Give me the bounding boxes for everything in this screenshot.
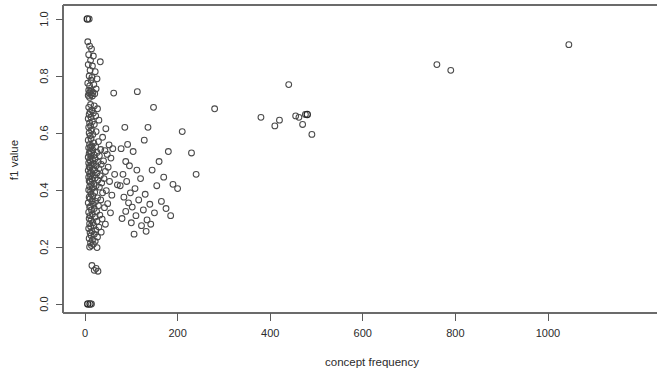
data-point [97,59,103,65]
data-point [129,204,135,210]
data-point [161,174,167,180]
data-point [138,176,144,182]
data-point [102,221,108,227]
data-point [434,62,440,68]
data-point [127,190,133,196]
data-point [139,223,145,229]
data-point [106,142,112,148]
data-point [111,90,117,96]
data-point [151,104,157,110]
data-point [128,220,134,226]
scatter-plot: 0.00.20.40.60.81.0 f1 value 020040060080… [0,0,657,376]
data-point [108,210,114,216]
data-point [110,146,116,152]
data-point [133,213,139,219]
data-point [107,179,113,185]
data-point [566,42,572,48]
data-point [168,213,174,219]
data-point [258,114,264,120]
data-point [136,197,142,203]
data-point [300,122,306,128]
x-axis-tick-label: 0 [82,327,88,339]
y-axis-tick-label: 0.4 [38,182,50,197]
x-axis-tick-labels: 02004006008001000 [82,327,560,339]
data-point [148,221,154,227]
x-axis-ticks [85,313,548,321]
data-point [105,164,111,170]
data-point [105,201,111,207]
data-point [125,142,131,148]
x-axis-tick-label: 600 [354,327,372,339]
plot-frame [63,5,657,313]
data-point [109,192,115,198]
data-point [134,167,140,173]
y-axis-title: f1 value [8,140,20,180]
data-point [140,207,146,213]
x-axis-tick-label: 800 [446,327,464,339]
x-axis: 02004006008001000 concept frequency [82,313,560,368]
data-point [121,194,127,200]
data-point [108,155,114,161]
data-point [145,124,151,130]
y-axis-tick-label: 0.0 [38,296,50,311]
data-point [165,149,171,155]
y-axis-tick-labels: 0.00.20.40.60.81.0 [38,11,50,311]
data-point [175,186,181,192]
data-point [170,181,176,187]
data-point [277,117,283,123]
data-point [103,126,109,132]
x-axis-tick-label: 1000 [536,327,560,339]
x-axis-title: concept frequency [325,356,419,368]
data-point [193,171,199,177]
y-axis-tick-label: 0.8 [38,68,50,83]
data-point [309,132,315,138]
data-point [132,186,138,192]
data-point [127,163,133,169]
data-point [102,169,108,175]
data-point [130,149,136,155]
data-point [212,106,218,112]
y-axis: 0.00.20.40.60.81.0 f1 value [8,11,63,311]
data-point [118,146,124,152]
data-points-layer [84,16,572,307]
data-point [112,171,118,177]
data-point [131,231,137,237]
data-point [102,205,108,211]
data-point [179,129,185,135]
data-point [154,183,160,189]
y-axis-tick-label: 1.0 [38,11,50,26]
data-point [120,171,126,177]
data-point [123,208,129,214]
data-point [149,167,155,173]
y-axis-tick-label: 0.6 [38,125,50,140]
data-point [143,228,149,234]
data-point [147,201,153,207]
data-point [163,206,169,212]
data-point [142,191,148,197]
data-point [448,67,454,73]
data-point [96,117,102,123]
data-point [286,82,292,88]
x-axis-tick-label: 400 [261,327,279,339]
y-axis-tick-label: 0.2 [38,239,50,254]
data-point [141,137,147,143]
data-point [119,216,125,222]
data-point [122,124,128,130]
data-point [152,210,158,216]
data-point [134,89,140,95]
y-axis-ticks [56,19,63,304]
data-point [189,150,195,156]
data-point [124,179,130,185]
data-point [156,159,162,165]
chart-screenshot: 0.00.20.40.60.81.0 f1 value 020040060080… [0,0,657,376]
x-axis-tick-label: 200 [168,327,186,339]
data-point [159,199,165,205]
data-point [272,123,278,129]
data-point [94,245,100,251]
